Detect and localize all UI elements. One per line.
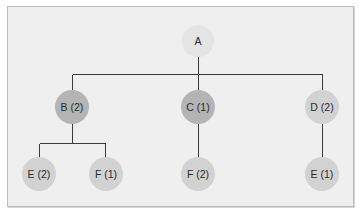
node-label: D (2) — [310, 101, 333, 113]
node-label: E (2) — [28, 168, 51, 180]
node-label: A — [194, 35, 201, 47]
node-label: C (1) — [186, 101, 209, 113]
node-b-e: E (2) — [22, 157, 56, 191]
node-d-e: E (1) — [305, 157, 339, 191]
node-c-f: F (2) — [181, 157, 215, 191]
tree-diagram: A B (2) C (1) D (2) E (2) F (1) F (2) E … — [0, 0, 359, 214]
node-b-f: F (1) — [89, 157, 123, 191]
node-c: C (1) — [181, 90, 215, 124]
node-a: A — [182, 25, 214, 57]
node-label: B (2) — [61, 101, 84, 113]
node-d: D (2) — [305, 90, 339, 124]
node-label: F (1) — [95, 168, 117, 180]
node-label: F (2) — [187, 168, 209, 180]
node-b: B (2) — [55, 90, 89, 124]
node-label: E (1) — [311, 168, 334, 180]
